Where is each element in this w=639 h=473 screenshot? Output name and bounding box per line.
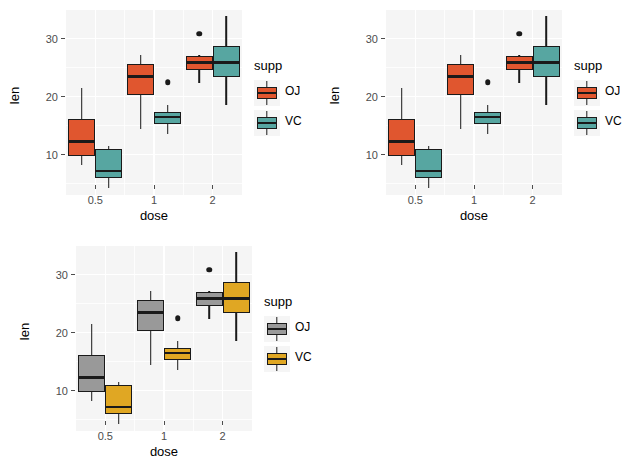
boxplot-box xyxy=(127,10,154,195)
boxplot-box xyxy=(196,246,223,431)
outlier-point xyxy=(206,267,212,273)
whisker-lower xyxy=(225,77,227,105)
legend-key-whisker-lower xyxy=(276,335,277,341)
y-tick-mark xyxy=(381,154,385,155)
gridline-vertical-minor xyxy=(503,10,504,195)
whisker-upper xyxy=(225,16,227,45)
box-iqr xyxy=(68,119,95,157)
box-iqr xyxy=(78,355,105,393)
whisker-lower xyxy=(428,178,430,188)
x-axis-title: dose xyxy=(76,444,252,459)
legend-key-whisker-upper xyxy=(276,317,277,323)
outlier-point xyxy=(165,80,171,86)
boxplot-box xyxy=(388,10,415,195)
median-line xyxy=(533,61,560,64)
whisker-lower xyxy=(235,313,237,341)
legend-key-median xyxy=(257,92,277,94)
median-line xyxy=(223,297,250,300)
y-tick-label: 10 xyxy=(342,149,378,161)
whisker-upper xyxy=(545,16,547,45)
legend-key-median xyxy=(577,92,597,94)
box-iqr xyxy=(388,119,415,157)
x-tick-label: 1 xyxy=(161,430,167,442)
gridline-vertical-minor xyxy=(444,10,445,195)
median-line xyxy=(186,61,213,64)
boxplot-box xyxy=(154,10,181,195)
box-iqr xyxy=(137,300,164,331)
y-tick-mark xyxy=(71,390,75,391)
whisker-lower xyxy=(545,77,547,105)
y-tick-label: 20 xyxy=(22,91,58,103)
x-tick-label: 0.5 xyxy=(408,194,423,206)
whisker-upper xyxy=(401,88,403,119)
median-line xyxy=(137,311,164,314)
gridline-vertical-minor xyxy=(124,10,125,195)
legend-key-median xyxy=(577,122,597,124)
plot-panel xyxy=(386,10,562,195)
boxplot-box xyxy=(223,246,250,431)
box-iqr xyxy=(95,149,122,178)
whisker-lower xyxy=(198,70,200,83)
whisker-lower xyxy=(81,156,83,165)
whisker-upper xyxy=(81,88,83,119)
y-tick-label: 20 xyxy=(32,327,68,339)
y-tick-mark xyxy=(61,154,65,155)
median-line xyxy=(213,61,240,64)
legend-key-median xyxy=(267,328,287,330)
legend-key-whisker-upper xyxy=(586,81,587,87)
gridline-vertical-minor xyxy=(183,10,184,195)
legend-title: supp xyxy=(254,58,282,73)
legend-key-whisker-lower xyxy=(276,365,277,371)
x-tick-label: 2 xyxy=(210,194,216,206)
whisker-lower xyxy=(108,178,110,188)
y-tick-mark xyxy=(71,274,75,275)
x-tick-mark xyxy=(105,421,106,425)
boxplot-box xyxy=(164,246,191,431)
y-tick-label: 20 xyxy=(342,91,378,103)
legend-key-whisker-upper xyxy=(266,81,267,87)
x-tick-mark xyxy=(415,185,416,189)
whisker-upper xyxy=(91,324,93,355)
boxplot-box xyxy=(447,10,474,195)
boxplot-figure-1: 1020300.512lendosesuppOJVC xyxy=(0,0,320,236)
legend-key-median xyxy=(267,358,287,360)
plot-panel xyxy=(76,246,252,431)
whisker-upper xyxy=(460,55,462,65)
y-tick-mark xyxy=(381,38,385,39)
y-tick-label: 10 xyxy=(32,385,68,397)
whisker-lower xyxy=(518,70,520,83)
legend-key-swatch xyxy=(264,346,290,372)
legend-key-whisker-upper xyxy=(276,347,277,353)
x-axis-title: dose xyxy=(386,208,562,223)
legend-label: OJ xyxy=(295,320,310,334)
x-tick-mark xyxy=(95,185,96,189)
legend-key-swatch xyxy=(254,110,280,136)
boxplot-box xyxy=(415,10,442,195)
boxplot-box xyxy=(213,10,240,195)
x-tick-label: 1 xyxy=(151,194,157,206)
x-tick-label: 2 xyxy=(530,194,536,206)
outlier-point xyxy=(485,80,491,86)
box-iqr xyxy=(105,385,132,414)
boxplot-box xyxy=(78,246,105,431)
whisker-lower xyxy=(167,124,169,134)
boxplot-box xyxy=(68,10,95,195)
whisker-upper xyxy=(167,105,169,112)
legend-label: OJ xyxy=(605,84,620,98)
boxplot-box xyxy=(137,246,164,431)
y-axis-title: len xyxy=(327,87,342,104)
whisker-lower xyxy=(177,360,179,370)
legend-label: OJ xyxy=(285,84,300,98)
median-line xyxy=(506,61,533,64)
y-tick-mark xyxy=(381,96,385,97)
box-iqr xyxy=(127,64,154,95)
whisker-upper xyxy=(487,105,489,112)
y-tick-mark xyxy=(71,332,75,333)
median-line xyxy=(164,352,191,355)
legend-key-whisker-upper xyxy=(586,111,587,117)
x-tick-mark xyxy=(474,185,475,189)
whisker-lower xyxy=(91,392,93,401)
median-line xyxy=(474,116,501,119)
plot-area-3: 1020300.512lendosesuppOJVC xyxy=(10,236,330,473)
x-tick-label: 0.5 xyxy=(88,194,103,206)
